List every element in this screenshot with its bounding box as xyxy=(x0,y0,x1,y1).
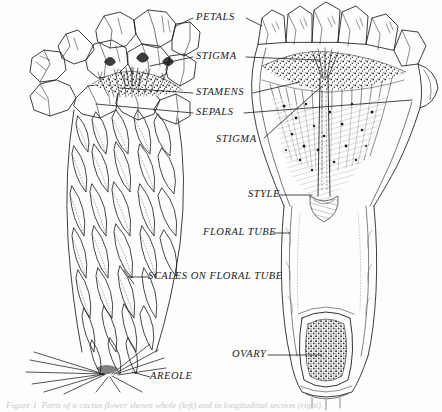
figure-caption: Figure 1. Parts of a cactus flower shown… xyxy=(6,400,436,411)
whole-flower-specimen xyxy=(26,10,200,394)
label-style: STYLE xyxy=(248,189,280,200)
section-flower-specimen xyxy=(252,2,438,410)
label-floral-tube: FLORAL TUBE xyxy=(203,227,276,238)
label-ovary: OVARY xyxy=(232,349,266,360)
label-stigma-lower: STIGMA xyxy=(216,134,257,145)
figure-canvas: PETALS STIGMA STAMENS SEPALS STIGMA STYL… xyxy=(0,0,442,412)
label-areole: AREOLE xyxy=(150,371,192,382)
label-stigma-top: STIGMA xyxy=(196,51,237,62)
label-scales-on-floral-tube: SCALES ON FLORAL TUBE xyxy=(148,271,283,282)
botanical-illustration xyxy=(0,0,442,412)
label-stamens: STAMENS xyxy=(196,87,244,98)
label-petals: PETALS xyxy=(196,12,235,23)
label-sepals: SEPALS xyxy=(196,107,234,118)
